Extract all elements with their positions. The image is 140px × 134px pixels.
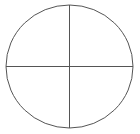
quadrant-circle-diagram xyxy=(0,0,140,134)
diagram-canvas xyxy=(0,0,140,134)
